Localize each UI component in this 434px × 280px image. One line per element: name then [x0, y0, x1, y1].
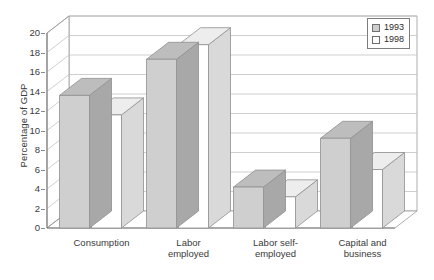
y-tick-mark: [41, 92, 45, 93]
y-tick-label: 6: [35, 165, 40, 175]
y-axis-ticks: 02468101214161820: [18, 0, 40, 280]
y-tick-label: 10: [29, 126, 40, 136]
legend: 1993 1998: [367, 18, 410, 49]
y-tick-mark: [41, 111, 45, 112]
y-tick-mark: [41, 72, 45, 73]
y-tick-mark: [41, 131, 45, 132]
y-tick-label: 12: [29, 106, 40, 116]
y-tick-mark: [41, 150, 45, 151]
y-tick-label: 20: [29, 28, 40, 38]
legend-swatch-1993: [372, 24, 380, 32]
y-tick-label: 14: [29, 87, 40, 97]
legend-item-1998: 1998: [372, 34, 404, 45]
legend-label-1993: 1993: [384, 23, 404, 32]
y-tick-label: 0: [35, 223, 40, 233]
y-tick-label: 8: [35, 145, 40, 155]
y-tick-label: 18: [29, 48, 40, 58]
y-tick-label: 2: [35, 204, 40, 214]
legend-item-1993: 1993: [372, 22, 404, 33]
y-tick-mark: [41, 189, 45, 190]
y-tick-mark: [41, 33, 45, 34]
x-axis-category-label: Capital and business: [308, 237, 418, 259]
legend-swatch-1998: [372, 36, 380, 44]
y-tick-mark: [41, 209, 45, 210]
bar-chart: Percentage of GDP 02468101214161820 Cons…: [0, 0, 434, 280]
y-tick-label: 4: [35, 184, 40, 194]
legend-label-1998: 1998: [384, 35, 404, 44]
y-tick-label: 16: [29, 67, 40, 77]
y-tick-mark: [41, 170, 45, 171]
y-tick-mark: [41, 53, 45, 54]
y-tick-mark: [41, 228, 45, 229]
